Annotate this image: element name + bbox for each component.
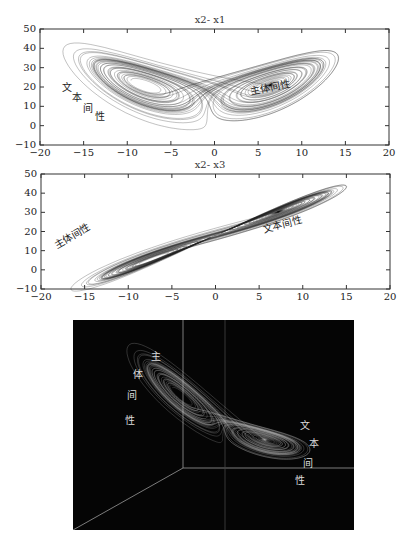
y-tick-label: −10 xyxy=(13,283,37,294)
x-tick-label: −15 xyxy=(73,291,97,302)
y-tick-label: 40 xyxy=(13,187,37,198)
annotation-char: 间 xyxy=(303,455,313,470)
annotation-char: 性 xyxy=(295,472,305,487)
y-tick-label: 30 xyxy=(13,206,37,217)
annotation-char: 文 xyxy=(300,417,310,432)
annotation-char: 本 xyxy=(309,435,319,450)
y-tick-label: 20 xyxy=(13,226,37,237)
annotation-char: 体 xyxy=(133,366,143,381)
x-tick-label: 0 xyxy=(204,291,228,302)
axis-line xyxy=(73,468,183,530)
y-tick-label: 10 xyxy=(13,245,37,256)
x-tick-label: −10 xyxy=(116,291,140,302)
y-tick-label: 50 xyxy=(13,168,37,179)
attractor-3d-view: 主 体 间 性 文 本 间 性 xyxy=(73,320,354,530)
x-tick-label: 10 xyxy=(291,291,315,302)
attractor-3d-plot xyxy=(73,320,354,530)
x-tick-label: 5 xyxy=(247,291,271,302)
x-tick-label: 20 xyxy=(378,291,402,302)
x-tick-label: 15 xyxy=(334,291,358,302)
plot-x2-x3: x2- x3 −20−15−10−505101520−1001020304050… xyxy=(0,0,416,310)
annotation-char: 性 xyxy=(125,412,135,427)
plot-area xyxy=(0,0,416,310)
annotation-char: 间 xyxy=(127,387,137,402)
x-tick-label: −5 xyxy=(160,291,184,302)
annotation-char: 主 xyxy=(151,348,161,363)
y-tick-label: 0 xyxy=(13,264,37,275)
attractor-trajectory xyxy=(71,185,347,291)
